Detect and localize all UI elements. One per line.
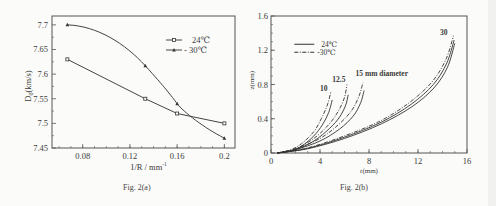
profile-curve (277, 91, 331, 153)
y-tick-label: 0 (264, 148, 268, 158)
caption-fig-2a: Fig. 2(a) (123, 183, 151, 192)
legend-label-minus30c: -30℃ (317, 48, 335, 57)
profile-curve (277, 85, 347, 154)
y-axis-label: z(mm) (248, 70, 256, 89)
profile-curve (277, 90, 364, 153)
x-tick-label: 8 (367, 156, 371, 166)
annotation-15mm-diameter: 15 mm diameter (356, 69, 409, 78)
y-tick-label: 0.4 (257, 114, 268, 124)
caption-fig-2b: Fig. 2(b) (340, 183, 368, 192)
x-tick-label: 16 (463, 156, 472, 166)
x-tick-label: 12 (414, 156, 423, 166)
annotation-12-5: 12.5 (332, 75, 345, 84)
plot-frame (271, 16, 467, 153)
chart-fig-2b: 00.40.81.21.60481216r(mm)z(mm)1012.515 m… (0, 0, 496, 206)
profile-curve (277, 43, 455, 153)
x-tick-label: 4 (318, 156, 323, 166)
y-tick-label: 0.8 (257, 80, 268, 90)
annotation-10: 10 (320, 84, 328, 93)
annotation-30: 30 (440, 28, 448, 37)
y-tick-label: 1.2 (257, 45, 268, 55)
x-tick-label: 0 (269, 156, 273, 166)
profile-curve (277, 40, 454, 153)
y-tick-label: 1.6 (257, 11, 268, 21)
x-axis-label: r(mm) (360, 167, 379, 175)
